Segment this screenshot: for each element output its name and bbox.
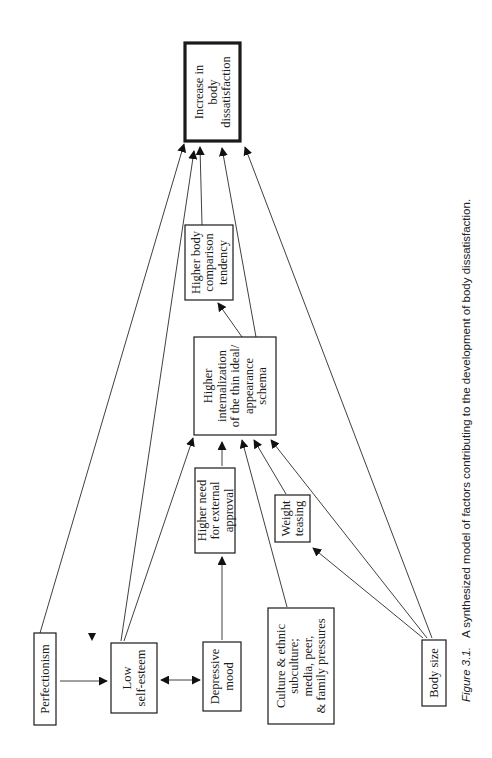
node-label-line: Culture & ethnic bbox=[274, 624, 288, 708]
node-internalization: Higherinternalizationof the thin ideal/a… bbox=[194, 337, 276, 435]
svg-text:Figure 3.1. A synthesi: Figure 3.1. A synthesized model of facto… bbox=[460, 199, 472, 702]
node-comparison: Higher bodycomparisontendency bbox=[185, 225, 233, 300]
node-teasing: Weightteasing bbox=[275, 495, 310, 542]
node-label-line: dissatisfaction bbox=[219, 55, 233, 127]
edge-selfesteem-to-internalization bbox=[124, 438, 193, 641]
node-bodysize: Body size bbox=[422, 640, 446, 706]
node-label-line: self-esteem bbox=[134, 649, 148, 706]
node-label-line: media, peer, bbox=[301, 636, 315, 697]
figure-caption: Figure 3.1. A synthesized model of facto… bbox=[460, 199, 472, 702]
edge-perfectionism-to-increase bbox=[40, 144, 184, 633]
node-label-line: Low bbox=[120, 667, 134, 690]
node-label-line: Higher need bbox=[195, 479, 209, 541]
node-label-line: Higher body bbox=[189, 230, 203, 294]
node-culture: Culture & ethnicsubculture;media, peer,&… bbox=[268, 608, 334, 724]
extra-layer bbox=[88, 633, 96, 641]
node-label-line: tendency bbox=[216, 239, 230, 285]
node-label-line: approval bbox=[222, 488, 236, 532]
node-selfesteem: Lowself-esteem bbox=[111, 643, 157, 713]
node-increase: Increase inbodydissatisfaction bbox=[185, 43, 240, 141]
node-label-line: subculture; bbox=[287, 638, 301, 694]
node-label-line: comparison bbox=[202, 233, 216, 292]
edge-comparison-to-increase bbox=[200, 147, 202, 225]
nodes-layer: Increase inbodydissatisfactionHigher bod… bbox=[34, 43, 446, 725]
node-label-bodysize: Body size bbox=[427, 648, 441, 698]
node-depressive: Depressivemood bbox=[203, 642, 241, 711]
node-label-line: body bbox=[206, 79, 220, 105]
node-label-line: appearance bbox=[242, 357, 256, 414]
node-label-line: Weight bbox=[279, 500, 293, 536]
body-dissatisfaction-diagram: Increase inbodydissatisfactionHigher bod… bbox=[0, 0, 492, 758]
edge-teasing-to-internalization bbox=[254, 440, 286, 494]
caption-label: Figure 3.1. bbox=[460, 647, 472, 702]
stray-arrowhead-marker bbox=[88, 633, 96, 641]
caption-text: A synthesized model of factors contribut… bbox=[460, 199, 472, 644]
node-label-line: Higher bbox=[201, 368, 215, 404]
node-label-line: of the thin ideal/ bbox=[228, 344, 242, 427]
node-label-line: teasing bbox=[292, 500, 306, 536]
node-label-line: Increase in bbox=[192, 64, 206, 119]
node-approval: Higher needfor externalapproval bbox=[195, 468, 236, 553]
node-label-line: Depressive bbox=[208, 648, 222, 704]
node-label-line: & family pressures bbox=[314, 618, 328, 713]
node-label-line: Perfectionism bbox=[38, 644, 52, 714]
edge-internalization-to-comparison bbox=[218, 303, 242, 337]
node-label-line: schema bbox=[255, 367, 269, 405]
node-label-line: internalization bbox=[215, 349, 229, 422]
node-label-teasing: Weightteasing bbox=[279, 500, 307, 536]
node-label-line: mood bbox=[222, 662, 236, 691]
node-label-perfectionism: Perfectionism bbox=[38, 644, 52, 714]
node-label-line: Body size bbox=[427, 648, 441, 698]
node-label-line: for external bbox=[208, 481, 222, 539]
node-perfectionism: Perfectionism bbox=[34, 633, 56, 725]
edge-selfesteem-to-increase bbox=[121, 151, 194, 641]
